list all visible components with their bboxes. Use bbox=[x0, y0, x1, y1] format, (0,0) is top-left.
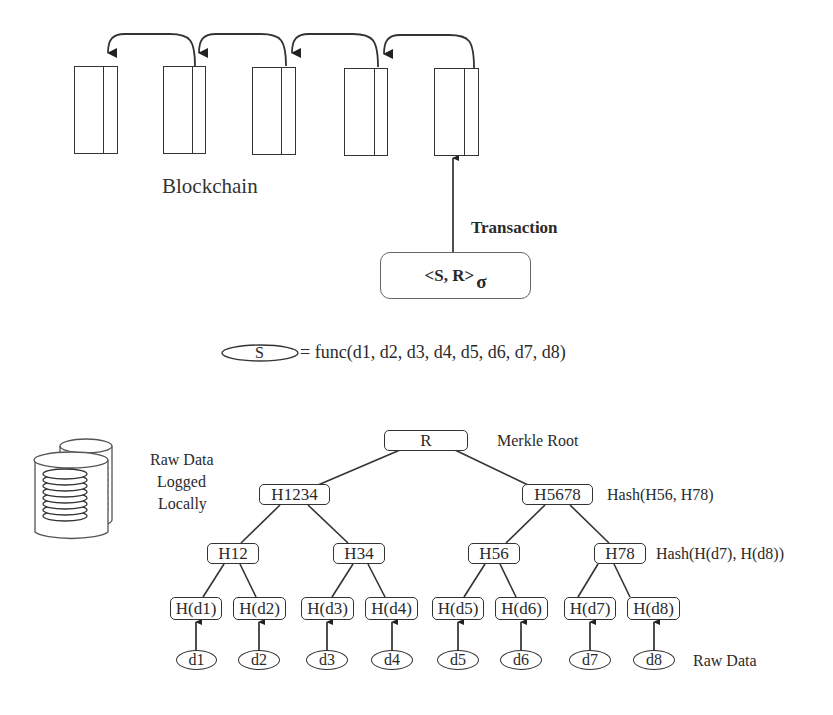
merkle-root-node: R bbox=[384, 430, 468, 451]
storage-label-line-2: Logged bbox=[157, 474, 206, 490]
raw-data-d2: d2 bbox=[238, 650, 280, 670]
signature-symbol: σ bbox=[476, 271, 486, 293]
transaction-label: Transaction bbox=[471, 219, 558, 236]
h78-annotation: Hash(H(d7), H(d8)) bbox=[656, 546, 784, 562]
transaction-content: <S, R> bbox=[425, 266, 475, 286]
transaction-box: <S, R> σ bbox=[380, 252, 531, 299]
merkle-root-annotation: Merkle Root bbox=[497, 433, 578, 449]
node-hd5: H(d5) bbox=[432, 597, 484, 620]
block-3 bbox=[252, 67, 296, 155]
merkle-edges bbox=[203, 450, 630, 597]
node-hd2: H(d2) bbox=[233, 597, 286, 620]
raw-data-d7: d7 bbox=[569, 650, 611, 670]
raw-data-d3: d3 bbox=[306, 650, 348, 670]
node-h12: H12 bbox=[207, 543, 259, 564]
node-h1234: H1234 bbox=[259, 484, 330, 505]
formula-expression: = func(d1, d2, d3, d4, d5, d6, d7, d8) bbox=[300, 343, 566, 361]
storage-label-line-3: Locally bbox=[158, 496, 207, 512]
node-h34: H34 bbox=[333, 543, 385, 564]
formula-symbol: S bbox=[255, 345, 264, 361]
storage-label-line-1: Raw Data bbox=[150, 452, 214, 468]
raw-data-d8: d8 bbox=[633, 650, 675, 670]
node-hd7: H(d7) bbox=[564, 597, 616, 620]
blockchain-merkle-diagram: Blockchain Transaction <S, R> σ S = func… bbox=[0, 0, 833, 715]
block-5 bbox=[434, 68, 479, 156]
database-icon bbox=[34, 439, 112, 538]
h5678-annotation: Hash(H56, H78) bbox=[607, 487, 714, 503]
node-h78: H78 bbox=[594, 543, 646, 564]
raw-data-d4: d4 bbox=[371, 650, 413, 670]
node-h56: H56 bbox=[468, 543, 520, 564]
raw-data-d5: d5 bbox=[437, 650, 479, 670]
blockchain-label: Blockchain bbox=[162, 176, 258, 197]
chain-link-arrows bbox=[108, 34, 474, 68]
node-hd6: H(d6) bbox=[495, 597, 548, 620]
node-hd4: H(d4) bbox=[365, 597, 418, 620]
node-hd1: H(d1) bbox=[170, 597, 222, 620]
node-hd3: H(d3) bbox=[301, 597, 354, 620]
node-h5678: H5678 bbox=[522, 484, 593, 505]
block-4 bbox=[344, 68, 388, 156]
raw-data-d6: d6 bbox=[500, 650, 542, 670]
block-2 bbox=[163, 66, 206, 154]
block-1 bbox=[74, 66, 118, 154]
leaf-hash-arrows bbox=[196, 622, 654, 650]
node-hd8: H(d8) bbox=[627, 597, 680, 620]
raw-data-annotation: Raw Data bbox=[693, 653, 757, 669]
raw-data-d1: d1 bbox=[176, 650, 217, 670]
